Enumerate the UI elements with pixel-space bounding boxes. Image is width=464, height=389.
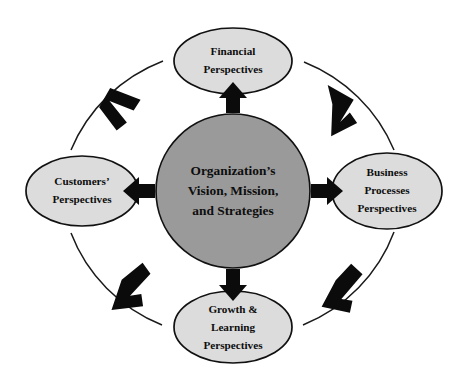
customers-perspectives-shape	[26, 156, 138, 226]
ring-arc-top-left	[71, 61, 163, 150]
financial-perspectives-label-line2: Perspectives	[203, 63, 263, 75]
business-processes-perspectives-label-line3: Perspectives	[357, 202, 417, 214]
center-label-line3: and Strategies	[192, 203, 273, 218]
business-processes-perspectives-label-line2: Processes	[364, 184, 410, 196]
business-processes-perspectives-label-line1: Business	[366, 166, 408, 178]
ring-chevron-top-left	[97, 85, 143, 132]
customers-perspectives-label-line2: Perspectives	[52, 193, 112, 205]
growth-and-learning-perspectives-label-group: Growth & Learning Perspectives	[203, 303, 263, 351]
center-node-label-group: Organization’s Vision, Mission, and Stra…	[188, 163, 279, 218]
financial-perspectives-label-line1: Financial	[211, 45, 256, 57]
diagram-canvas: Financial Perspectives Business Processe…	[0, 0, 464, 389]
center-label-line2: Vision, Mission,	[188, 183, 279, 198]
growth-and-learning-perspectives-label-line1: Growth &	[208, 303, 257, 315]
growth-and-learning-perspectives-label-line3: Perspectives	[203, 339, 263, 351]
ring-arc-bottom-left	[71, 233, 162, 325]
center-label-line1: Organization’s	[190, 163, 275, 178]
customers-perspectives-label-line1: Customers’	[54, 175, 109, 187]
growth-and-learning-perspectives-label-line2: Learning	[211, 321, 256, 333]
cycle-diagram: Financial Perspectives Business Processe…	[0, 0, 464, 389]
ring-chevron-bottom-left	[111, 260, 151, 313]
